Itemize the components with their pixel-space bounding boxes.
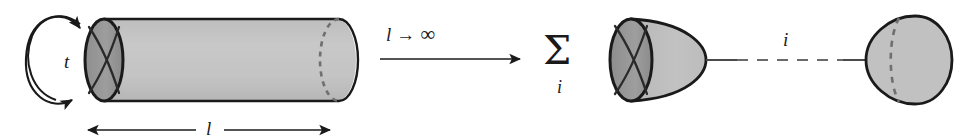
time-loop-arrow-upper — [28, 17, 80, 100]
summation-symbol: Σ — [543, 30, 571, 70]
infinity-symbol: ∞ — [420, 22, 435, 46]
cylinder-body — [85, 19, 356, 101]
length-label: l — [206, 119, 211, 138]
boundary-state-channel — [610, 16, 952, 104]
physics-diagram — [0, 0, 961, 140]
propagator-label: i — [783, 30, 788, 49]
right-cap-dome — [866, 16, 952, 104]
time-loop-label: t — [64, 52, 69, 71]
summation-index-label: i — [557, 78, 562, 96]
time-loop-arrow-lower — [26, 16, 80, 103]
cylinder-worldsheet — [26, 14, 358, 130]
right-arrow-icon: → — [391, 24, 420, 45]
limit-label: l→∞ — [386, 24, 435, 45]
